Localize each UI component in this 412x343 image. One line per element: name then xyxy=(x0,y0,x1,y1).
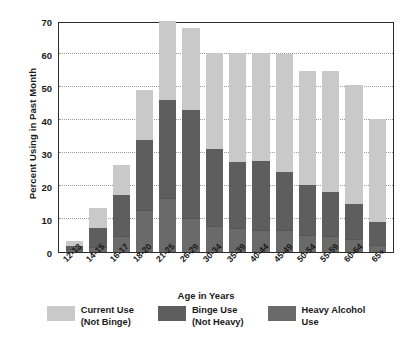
legend-item-binge-use[interactable]: Binge Use (Not Heavy) xyxy=(158,305,244,328)
stacked-bar[interactable] xyxy=(113,165,130,252)
bar-group[interactable] xyxy=(156,23,179,252)
y-tick-50: 50 xyxy=(26,83,52,94)
x-tick-cell: 16-17 xyxy=(109,255,132,291)
bar-group[interactable] xyxy=(319,23,342,252)
bar-segment[interactable] xyxy=(113,165,130,195)
bar-group[interactable] xyxy=(342,23,365,252)
bar-segment[interactable] xyxy=(136,140,153,211)
bar-segment[interactable] xyxy=(113,195,130,237)
bar-group[interactable] xyxy=(203,23,226,252)
legend-swatch-heavy-alcohol-use xyxy=(268,306,296,321)
bar-segment[interactable] xyxy=(345,204,362,239)
bar-segment[interactable] xyxy=(206,149,223,226)
stacked-bar[interactable] xyxy=(322,71,339,252)
bar-segment[interactable] xyxy=(299,185,316,235)
legend-label-current-use: Current Use (Not Binge) xyxy=(81,305,134,328)
bar-segment[interactable] xyxy=(369,119,386,222)
y-tick-60: 60 xyxy=(26,50,52,61)
bar-segment[interactable] xyxy=(159,100,176,199)
bar-group[interactable] xyxy=(249,23,272,252)
bar-segment[interactable] xyxy=(89,208,106,228)
stacked-bar[interactable] xyxy=(345,85,362,252)
bar-group[interactable] xyxy=(366,23,389,252)
bar-segment[interactable] xyxy=(369,222,386,245)
stacked-bar[interactable] xyxy=(136,90,153,252)
y-tick-40: 40 xyxy=(26,116,52,127)
bars-container xyxy=(59,23,393,252)
legend-swatch-binge-use xyxy=(158,306,186,321)
bar-segment[interactable] xyxy=(252,53,269,161)
bar-group[interactable] xyxy=(296,23,319,252)
bar-group[interactable] xyxy=(63,23,86,252)
stacked-bar[interactable] xyxy=(252,53,269,252)
bar-segment[interactable] xyxy=(229,53,246,161)
x-tick-cell: 18-20 xyxy=(132,255,155,291)
plot-area xyxy=(58,22,394,253)
bar-segment[interactable] xyxy=(182,110,199,218)
stacked-bar[interactable] xyxy=(369,119,386,252)
stacked-bar[interactable] xyxy=(206,53,223,252)
bar-segment[interactable] xyxy=(159,21,176,100)
bar-segment[interactable] xyxy=(299,71,316,186)
bar-group[interactable] xyxy=(86,23,109,252)
x-axis-tick-labels: 12-1314-1516-1718-2021-2526-2930-3435-39… xyxy=(58,255,394,291)
bar-segment[interactable] xyxy=(276,54,293,172)
bar-group[interactable] xyxy=(133,23,156,252)
legend-swatch-current-use xyxy=(47,306,75,321)
legend-label-binge-use: Binge Use (Not Heavy) xyxy=(192,305,244,328)
bar-group[interactable] xyxy=(179,23,202,252)
y-tick-70: 70 xyxy=(26,17,52,28)
x-axis-title: Age in Years xyxy=(0,290,412,301)
x-tick-cell: 30-34 xyxy=(203,255,226,291)
bar-group[interactable] xyxy=(226,23,249,252)
bar-group[interactable] xyxy=(110,23,133,252)
x-tick-cell: 65+ xyxy=(366,255,389,291)
x-tick-cell: 26-29 xyxy=(179,255,202,291)
chart-legend: Current Use (Not Binge)Binge Use (Not He… xyxy=(0,305,412,328)
y-tick-0: 0 xyxy=(26,248,52,259)
stacked-bar[interactable] xyxy=(182,28,199,252)
bar-segment[interactable] xyxy=(182,28,199,111)
legend-item-heavy-alcohol-use[interactable]: Heavy Alcohol Use xyxy=(268,305,366,328)
x-tick-cell: 45-49 xyxy=(273,255,296,291)
x-tick-cell: 40-44 xyxy=(249,255,272,291)
stacked-bar[interactable] xyxy=(276,54,293,252)
legend-label-heavy-alcohol-use: Heavy Alcohol Use xyxy=(302,305,366,328)
x-tick-cell: 55-59 xyxy=(320,255,343,291)
x-tick-cell: 50-54 xyxy=(296,255,319,291)
bar-segment[interactable] xyxy=(136,90,153,140)
legend-item-current-use[interactable]: Current Use (Not Binge) xyxy=(47,305,134,328)
y-tick-30: 30 xyxy=(26,149,52,160)
y-tick-10: 10 xyxy=(26,215,52,226)
bar-segment[interactable] xyxy=(276,172,293,230)
x-tick-cell: 60-64 xyxy=(343,255,366,291)
stacked-bar[interactable] xyxy=(299,71,316,252)
x-tick-cell: 21-25 xyxy=(156,255,179,291)
bar-group[interactable] xyxy=(273,23,296,252)
bar-segment[interactable] xyxy=(345,85,362,204)
bar-segment[interactable] xyxy=(229,162,246,228)
bar-segment[interactable] xyxy=(206,53,223,149)
x-tick-cell: 14-15 xyxy=(85,255,108,291)
bar-segment[interactable] xyxy=(322,192,339,237)
stacked-bar[interactable] xyxy=(229,53,246,252)
stacked-bar[interactable] xyxy=(159,21,176,252)
y-tick-20: 20 xyxy=(26,182,52,193)
x-tick-cell: 35-39 xyxy=(226,255,249,291)
stacked-bar-chart: Percent Using in Past Month 010203040506… xyxy=(0,0,412,343)
x-tick-cell: 12-13 xyxy=(62,255,85,291)
bar-segment[interactable] xyxy=(252,161,269,230)
bar-segment[interactable] xyxy=(322,71,339,192)
